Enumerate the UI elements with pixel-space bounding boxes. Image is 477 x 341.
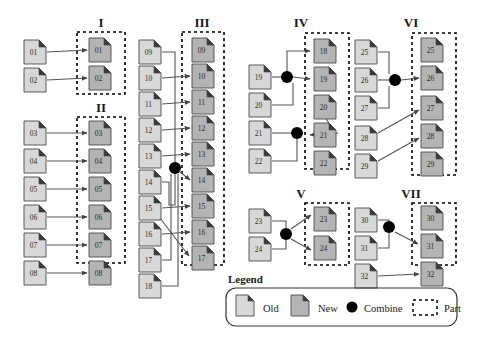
document-new-icon[interactable]: 23 [314, 207, 336, 231]
document-label: 15 [145, 204, 153, 213]
document-new-icon[interactable]: 25 [421, 38, 443, 62]
document-new-icon[interactable]: 03 [89, 121, 111, 145]
document-new-icon[interactable]: 08 [89, 261, 111, 285]
document-label: 16 [145, 230, 153, 239]
combine-node-icon[interactable] [280, 228, 292, 240]
document-label: 30 [427, 214, 435, 223]
document-old-icon[interactable]: 10 [139, 66, 161, 90]
document-new-icon[interactable]: 02 [89, 66, 111, 90]
document-new-icon[interactable]: 14 [192, 168, 214, 192]
document-old-icon[interactable]: 26 [355, 68, 377, 92]
document-label: 31 [427, 242, 435, 251]
document-label: 15 [198, 202, 206, 211]
combine-node-icon[interactable] [389, 74, 401, 86]
document-new-icon[interactable]: 07 [89, 233, 111, 257]
document-new-icon[interactable]: 19 [314, 67, 336, 91]
document-label: 24 [255, 245, 263, 254]
document-label: 18 [320, 47, 328, 56]
document-part-diagram: I01020102II030405060708030405060708III09… [0, 0, 477, 341]
document-old-icon[interactable]: 31 [355, 236, 377, 260]
document-old-icon[interactable]: 30 [355, 208, 377, 232]
document-label: 01 [95, 46, 103, 55]
document-new-icon[interactable]: 30 [421, 206, 443, 230]
document-new-icon[interactable]: 09 [192, 38, 214, 62]
document-new-icon[interactable]: 31 [421, 234, 443, 258]
document-new-icon[interactable]: 24 [314, 236, 336, 260]
document-label: 16 [198, 228, 206, 237]
document-new-icon[interactable]: 05 [89, 177, 111, 201]
document-label: 27 [361, 104, 369, 113]
document-old-icon[interactable]: 24 [249, 237, 271, 261]
combine-node-icon[interactable] [281, 71, 293, 83]
document-new-icon[interactable]: 22 [314, 151, 336, 175]
document-old-icon[interactable]: 06 [24, 205, 46, 229]
document-old-icon[interactable]: 14 [139, 170, 161, 194]
document-new-icon[interactable]: 32 [421, 262, 443, 286]
group-label: VI [404, 15, 418, 30]
document-new-icon[interactable]: 26 [421, 66, 443, 90]
document-new-icon[interactable]: 01 [89, 38, 111, 62]
document-label: 10 [198, 72, 206, 81]
document-old-icon[interactable]: 18 [139, 274, 161, 298]
document-old-icon[interactable]: 22 [249, 149, 271, 173]
document-old-icon[interactable]: 16 [139, 222, 161, 246]
document-old-icon[interactable]: 03 [24, 121, 46, 145]
document-new-icon[interactable]: 15 [192, 194, 214, 218]
document-label: 30 [361, 216, 369, 225]
document-label: 03 [30, 129, 38, 138]
document-old-icon[interactable]: 20 [249, 93, 271, 117]
document-old-icon[interactable]: 05 [24, 177, 46, 201]
document-label: 19 [320, 75, 328, 84]
document-old-icon[interactable]: 17 [139, 248, 161, 272]
document-old-icon[interactable]: 21 [249, 121, 271, 145]
document-label: 20 [320, 103, 328, 112]
document-new-icon[interactable]: 06 [89, 205, 111, 229]
group-label: IV [294, 15, 309, 30]
document-label: 32 [361, 272, 369, 281]
document-old-icon[interactable]: 08 [24, 261, 46, 285]
document-old-icon[interactable]: 11 [139, 92, 161, 116]
document-new-icon[interactable]: 29 [421, 152, 443, 176]
document-old-icon[interactable]: 32 [355, 264, 377, 288]
document-new-icon[interactable]: 10 [192, 64, 214, 88]
document-label: 29 [427, 160, 435, 169]
document-old-icon[interactable]: 01 [24, 40, 46, 64]
combine-node-icon[interactable] [383, 221, 395, 233]
document-old-icon[interactable]: 19 [249, 65, 271, 89]
document-new-icon[interactable]: 16 [192, 220, 214, 244]
document-old-icon[interactable]: 07 [24, 233, 46, 257]
document-old-icon[interactable]: 09 [139, 40, 161, 64]
document-old-icon[interactable]: 28 [355, 126, 377, 150]
document-label: 09 [198, 46, 206, 55]
document-old-icon[interactable]: 29 [355, 154, 377, 178]
document-new-icon[interactable]: 12 [192, 116, 214, 140]
document-new-icon[interactable]: 20 [314, 95, 336, 119]
document-old-icon[interactable]: 02 [24, 68, 46, 92]
document-old-icon[interactable]: 15 [139, 196, 161, 220]
group-label: I [98, 15, 103, 30]
combine-node-icon[interactable] [169, 162, 181, 174]
document-old-icon[interactable]: 27 [355, 96, 377, 120]
document-label: 04 [30, 157, 38, 166]
document-old-icon[interactable]: 25 [355, 40, 377, 64]
document-old-icon[interactable]: 23 [249, 209, 271, 233]
legend-item-label: New [318, 303, 338, 314]
document-old-icon[interactable]: 12 [139, 118, 161, 142]
document-label: 01 [30, 48, 38, 57]
document-label: 25 [427, 46, 435, 55]
document-label: 04 [95, 157, 103, 166]
document-label: 21 [320, 131, 328, 140]
document-new-icon[interactable]: 17 [192, 246, 214, 270]
document-old-icon[interactable]: 04 [24, 149, 46, 173]
document-new-icon[interactable]: 18 [314, 39, 336, 63]
document-old-icon[interactable]: 13 [139, 144, 161, 168]
document-new-icon[interactable]: 11 [192, 90, 214, 114]
document-new-icon[interactable]: 27 [421, 96, 443, 120]
document-label: 13 [145, 152, 153, 161]
document-new-icon[interactable]: 28 [421, 124, 443, 148]
combine-node-icon[interactable] [291, 127, 303, 139]
document-new-icon[interactable]: 04 [89, 149, 111, 173]
document-new-icon[interactable]: 21 [314, 123, 336, 147]
document-label: 31 [361, 244, 369, 253]
document-new-icon[interactable]: 13 [192, 142, 214, 166]
